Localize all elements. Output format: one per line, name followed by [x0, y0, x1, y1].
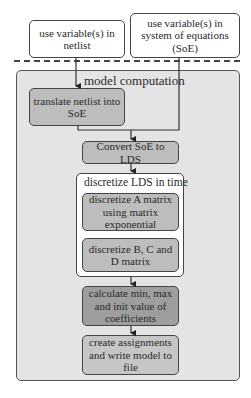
connector-lines — [0, 0, 251, 398]
